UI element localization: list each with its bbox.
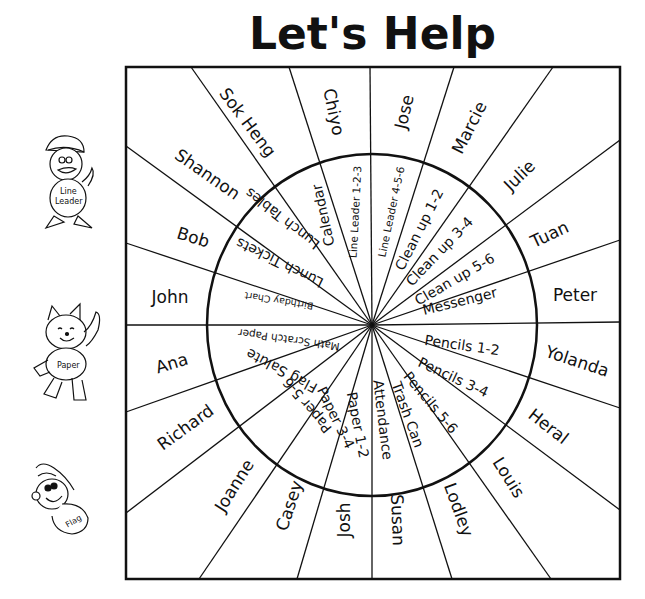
duck-icon: Line Leader — [46, 136, 93, 228]
wheel-spoke — [199, 325, 372, 579]
student-name: Shannon — [171, 145, 244, 204]
student-name: Joanne — [210, 456, 258, 517]
wheel-slot: ChiyoCalendar — [309, 86, 349, 247]
student-name: Bob — [175, 223, 212, 252]
wheel-slot: LouisPencils 3-4 — [416, 354, 529, 502]
student-name: Tuan — [526, 217, 571, 252]
cat-shirt-label: Paper — [57, 361, 80, 370]
student-name: Sok Heng — [215, 84, 280, 161]
bear-icon: Flag — [32, 464, 88, 534]
wheel-spoke — [191, 67, 372, 325]
job-wheel: Sok HengLunch TablesChiyoCalendarJoseLin… — [0, 0, 645, 599]
student-name: Peter — [553, 285, 597, 305]
student-name: Jose — [390, 93, 418, 132]
student-name: Casey — [272, 478, 307, 533]
student-name: John — [151, 287, 189, 307]
job-duty: Line Leader 1-2-3 — [347, 166, 364, 259]
student-name: Ana — [153, 349, 190, 378]
wheel-spokes — [126, 67, 620, 579]
student-name: Heral — [525, 404, 573, 448]
job-duty: Pencils 1-2 — [424, 332, 501, 358]
wheel-slot: ShannonLunch Tickets — [171, 145, 326, 291]
student-name: Julie — [499, 156, 539, 196]
wheel-slot: SusanTrash Can — [387, 379, 427, 546]
student-name: Lodley — [440, 480, 478, 539]
cat-icon: Paper — [34, 304, 100, 400]
student-name: Yolanda — [542, 341, 612, 381]
wheel-slot: JoshAttendance — [334, 379, 396, 539]
wheel-spoke — [370, 67, 372, 325]
wheel-spoke — [372, 322, 620, 325]
student-name: Chiyo — [319, 86, 349, 137]
student-name: Richard — [153, 400, 217, 454]
duck-shirt-label-1: Line — [60, 187, 77, 196]
student-name: Susan — [387, 494, 409, 546]
student-name: Josh — [334, 502, 354, 538]
duck-shirt-label-2: Leader — [55, 197, 83, 206]
student-name: Louis — [489, 454, 529, 502]
student-name: Marcie — [447, 98, 490, 157]
